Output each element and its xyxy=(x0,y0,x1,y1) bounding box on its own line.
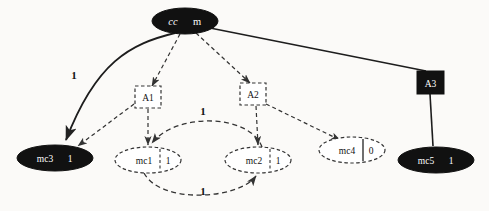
node-mc2-label: mc2 xyxy=(246,156,263,166)
node-mc3-label: mc3 xyxy=(37,154,54,164)
node-mc3[interactable]: mc3 1 xyxy=(17,145,93,171)
edge-a2-mc4 xyxy=(266,104,340,140)
node-a2[interactable]: A2 xyxy=(240,83,266,105)
node-mc5-value: 1 xyxy=(449,156,454,166)
edge-root-a2 xyxy=(196,33,250,83)
edge-a3-mc5 xyxy=(430,94,433,146)
node-mc1-value: 1 xyxy=(166,156,171,166)
node-mc4[interactable]: mc4 0 xyxy=(319,137,385,163)
node-mc1[interactable]: mc1 1 xyxy=(115,147,181,173)
edge-label-mc1-mc2: 1 xyxy=(200,185,206,197)
node-a1[interactable]: A1 xyxy=(135,86,161,108)
node-root-label: cc xyxy=(168,16,178,27)
node-layer: cc m A1 A2 A3 mc3 1 xyxy=(17,8,474,173)
node-root-shape[interactable] xyxy=(152,8,218,34)
node-mc3-value: 1 xyxy=(68,154,73,164)
edge-root-a1 xyxy=(152,34,180,86)
node-mc1-label: mc1 xyxy=(136,156,153,166)
diagram-svg: cc m A1 A2 A3 mc3 1 xyxy=(0,0,489,211)
edge-label-root-mc3: 1 xyxy=(71,69,77,81)
edge-mc2-mc1 xyxy=(152,121,262,147)
node-mc2[interactable]: mc2 1 xyxy=(225,147,291,173)
edge-label-mc2-mc1: 1 xyxy=(200,105,206,117)
edge-a1-mc3 xyxy=(78,104,134,146)
node-mc4-label: mc4 xyxy=(339,146,356,156)
node-root-value: m xyxy=(193,16,201,27)
node-mc4-value: 0 xyxy=(369,146,374,156)
node-a2-label: A2 xyxy=(247,90,259,100)
node-mc5-shape[interactable] xyxy=(398,147,474,173)
edge-root-a3 xyxy=(205,27,426,71)
node-mc2-value: 1 xyxy=(276,156,281,166)
diagram-canvas: cc m A1 A2 A3 mc3 1 xyxy=(0,0,489,211)
node-mc3-shape[interactable] xyxy=(17,145,93,171)
node-a3-label: A3 xyxy=(425,79,437,89)
node-a3[interactable]: A3 xyxy=(417,71,444,94)
node-root[interactable]: cc m xyxy=(152,8,218,34)
node-mc5-label: mc5 xyxy=(418,156,435,166)
node-a1-label: A1 xyxy=(142,93,154,103)
node-mc5[interactable]: mc5 1 xyxy=(398,147,474,173)
